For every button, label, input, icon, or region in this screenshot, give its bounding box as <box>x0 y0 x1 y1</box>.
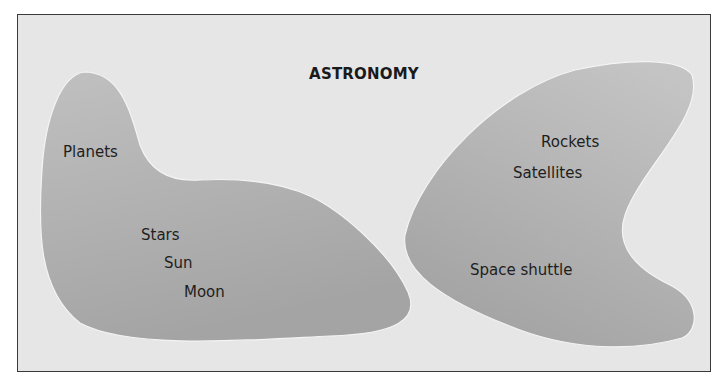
diagram-title: ASTRONOMY <box>309 65 420 83</box>
left-region-shape <box>40 72 411 341</box>
diagram-svg: ASTRONOMY Planets Stars Sun Moon Rockets… <box>0 0 727 391</box>
diagram-canvas: ASTRONOMY Planets Stars Sun Moon Rockets… <box>0 0 727 391</box>
right-region-shape <box>405 62 695 347</box>
label-rockets: Rockets <box>541 133 599 151</box>
label-space-shuttle: Space shuttle <box>470 261 572 279</box>
label-moon: Moon <box>184 283 225 301</box>
label-stars: Stars <box>141 226 180 244</box>
label-planets: Planets <box>63 143 118 161</box>
label-sun: Sun <box>164 254 193 272</box>
label-satellites: Satellites <box>513 164 582 182</box>
